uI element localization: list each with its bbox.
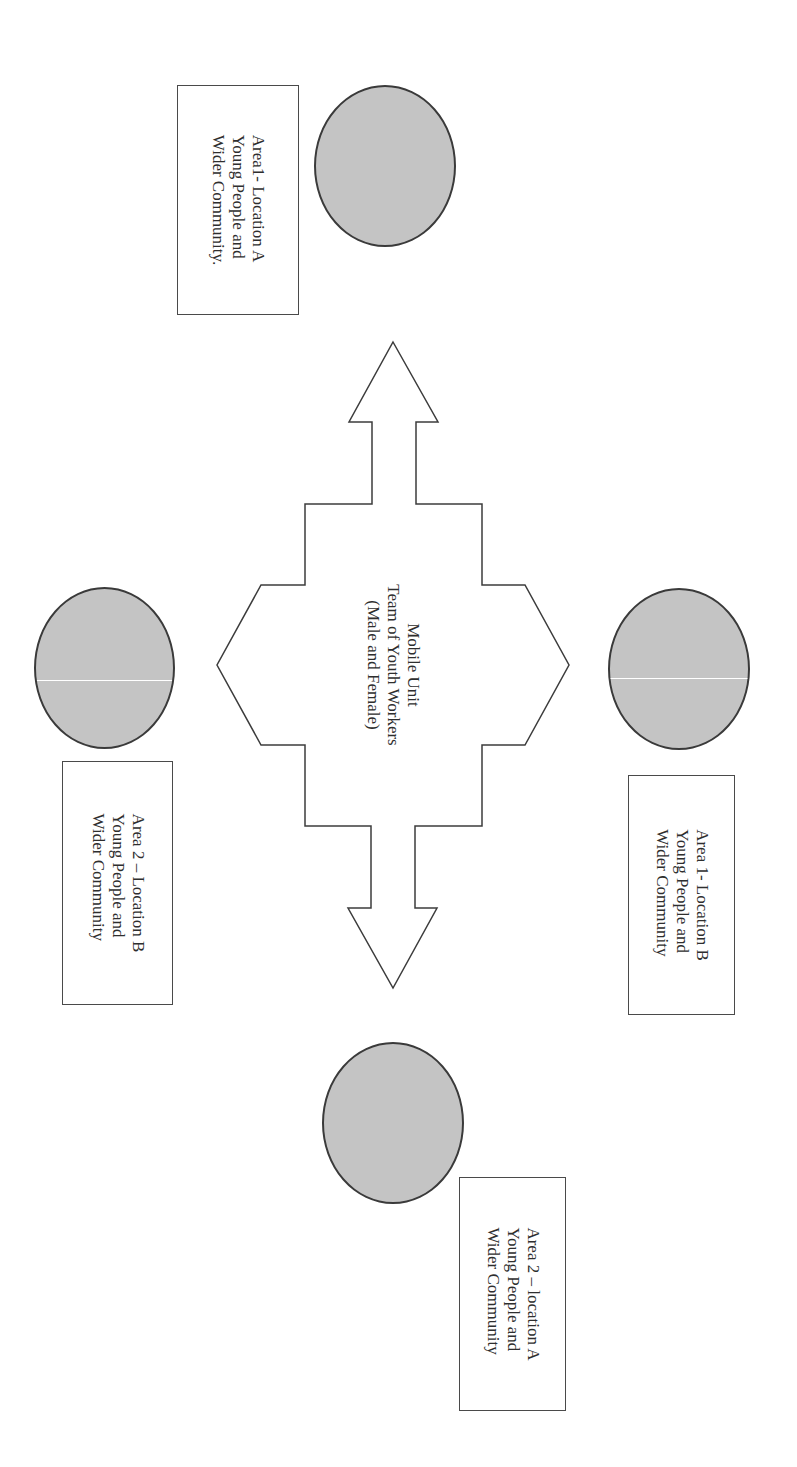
area2-location-a-box: Area 2 – location A Young People and Wid… xyxy=(459,1177,566,1411)
mobile-unit-label: Mobile Unit Team of Youth Workers (Male … xyxy=(363,584,423,745)
area1-location-a-line-3: Wider Community. xyxy=(208,135,228,265)
area1-location-b-circle xyxy=(608,588,750,750)
area1-location-a-circle xyxy=(314,85,456,247)
mobile-unit-gender: (Male and Female) xyxy=(363,584,383,745)
area2-location-b-box: Area 2 – Location B Young People and Wid… xyxy=(62,761,173,1005)
area1-location-a-text: Area1- Location A Young People and Wider… xyxy=(208,135,268,265)
area1-location-b-line-2: Young People and xyxy=(672,829,692,961)
area1-location-a-line-1: Area1- Location A xyxy=(248,135,268,265)
area1-location-b-line-3: Wider Community xyxy=(652,829,672,961)
mobile-unit-title: Mobile Unit xyxy=(403,584,423,745)
circle-divider-line xyxy=(610,678,748,679)
area2-location-a-line-1: Area 2 – location A xyxy=(523,1227,543,1360)
area1-location-b-line-1: Area 1- Location B xyxy=(692,829,712,961)
area1-location-b-text: Area 1- Location B Young People and Wide… xyxy=(652,829,712,961)
area2-location-b-line-3: Wider Community xyxy=(88,814,108,953)
area2-location-b-line-2: Young People and xyxy=(108,814,128,953)
area2-location-a-text: Area 2 – location A Young People and Wid… xyxy=(483,1227,543,1360)
area1-location-a-line-2: Young People and xyxy=(228,135,248,265)
area1-location-a-box: Area1- Location A Young People and Wider… xyxy=(177,85,299,315)
area1-location-b-box: Area 1- Location B Young People and Wide… xyxy=(628,775,735,1015)
area2-location-a-circle xyxy=(322,1042,464,1204)
mobile-unit-team: Team of Youth Workers xyxy=(383,584,403,745)
area2-location-b-line-1: Area 2 – Location B xyxy=(128,814,148,953)
area2-location-b-text: Area 2 – Location B Young People and Wid… xyxy=(88,814,148,953)
circle-divider-line xyxy=(36,680,173,681)
area2-location-b-circle xyxy=(34,587,175,749)
area2-location-a-line-3: Wider Community xyxy=(483,1227,503,1360)
area2-location-a-line-2: Young People and xyxy=(503,1227,523,1360)
